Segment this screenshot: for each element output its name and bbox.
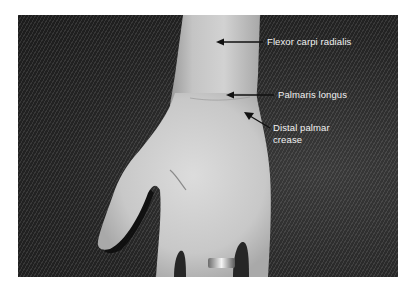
label-distal-palmar-crease-line1: Distal palmar: [273, 122, 330, 133]
label-palmaris-longus: Palmaris longus: [278, 89, 347, 100]
wedding-ring: [208, 258, 235, 268]
label-distal-palmar-crease-line2: crease: [273, 134, 302, 145]
anatomy-photo: Flexor carpi radialis Palmaris longus Di…: [18, 15, 398, 277]
forearm: [170, 15, 260, 105]
hand-wrist-illustration: [18, 15, 398, 277]
label-flexor-carpi-radialis: Flexor carpi radialis: [267, 36, 351, 47]
